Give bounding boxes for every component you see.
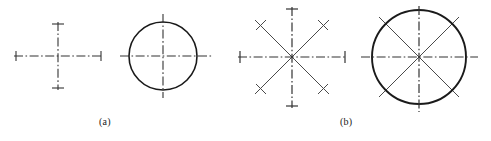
panel-a-centerline-cross xyxy=(14,22,103,90)
technical-drawing-canvas xyxy=(0,0,491,141)
panel-b-circle-figure xyxy=(361,6,478,112)
panel-b-caption: (b) xyxy=(340,116,352,127)
star-diagonal-tick-nw xyxy=(256,20,266,30)
panel-b-eight-spoke-star xyxy=(238,7,346,108)
star-diagonal-tick-se xyxy=(318,84,328,94)
star-diagonal-tick-ne xyxy=(318,20,328,30)
panel-a-circle-figure xyxy=(120,14,212,98)
star-diagonal-tick-sw xyxy=(256,84,266,94)
panel-a-caption: (a) xyxy=(99,116,111,127)
figure-container: (a) (b) xyxy=(0,0,491,141)
